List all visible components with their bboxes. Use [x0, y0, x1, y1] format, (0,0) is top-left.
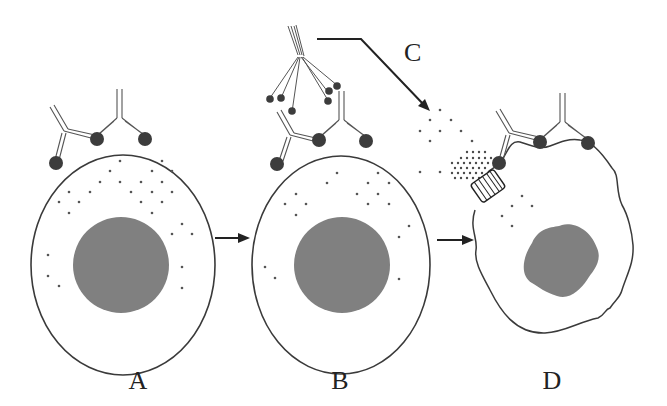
complement-lysis-diagram: A B D C: [0, 0, 667, 406]
diagram-canvas: [0, 0, 667, 406]
arrow-b-to-d: [437, 235, 474, 245]
cell-a: [31, 89, 215, 375]
arrow-a-to-b: [215, 233, 250, 243]
cell-a-nucleus: [73, 217, 169, 313]
panel-label-a: A: [129, 368, 148, 394]
cell-b-nucleus: [294, 217, 390, 313]
cell-b-antibodies: [277, 91, 365, 161]
cell-d: [419, 93, 633, 333]
cell-b: [252, 25, 430, 374]
panel-label-b: B: [331, 368, 348, 394]
leaked-granules: [419, 109, 474, 174]
cell-a-antibodies: [50, 89, 143, 160]
step-label-c: C: [404, 40, 421, 66]
panel-label-d: D: [543, 368, 562, 394]
